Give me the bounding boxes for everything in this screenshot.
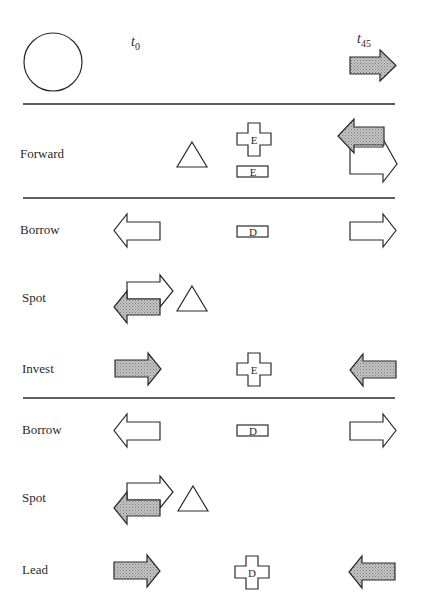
shaded-right-arrow-icon [114,555,160,587]
row-invest: Invest E [22,353,396,386]
row-label-borrow: Borrow [20,222,60,237]
row-label-borrow: Borrow [22,422,62,437]
row-spot-1: Spot [22,275,207,323]
cross-label: E [251,364,258,376]
start-circle-icon [24,33,82,91]
shaded-left-arrow-icon [349,556,395,588]
shaded-right-arrow-icon [115,353,161,385]
row-label-spot: Spot [22,490,46,505]
row-borrow-1: Borrow D [20,214,396,247]
triangle-icon [177,142,207,167]
cross-label: D [248,567,256,579]
white-left-arrow-icon [114,414,160,447]
white-left-arrow-icon [114,214,160,247]
hedging-diagram: t0 t45 Forward E E Borrow D Spot Invest [0,0,421,612]
row-label-spot: Spot [22,290,46,305]
row-forward: Forward E E [20,119,397,182]
row-label-lead: Lead [22,562,48,577]
shaded-right-arrow-icon [350,50,396,81]
rect-label: D [249,226,257,238]
rect-label: D [249,425,257,437]
row-spot-2: Spot [22,476,208,524]
triangle-icon [178,486,208,511]
white-right-arrow-icon [350,214,396,247]
shaded-left-arrow-icon [350,354,396,386]
time-start-label: t0 [131,34,140,52]
header-row: t0 t45 [24,31,396,91]
row-borrow-2: Borrow D [22,414,396,447]
white-right-arrow-icon [350,414,396,447]
row-label-forward: Forward [20,146,65,161]
triangle-icon [177,286,207,311]
time-end-label: t45 [357,31,371,49]
cross-label: E [251,134,258,146]
row-label-invest: Invest [22,361,54,376]
row-lead: Lead D [22,555,395,589]
rect-label: E [250,166,257,178]
